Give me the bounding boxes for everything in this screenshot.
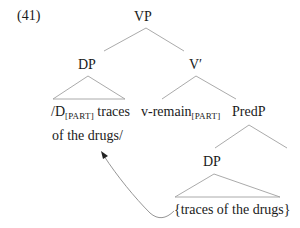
node-dp-low: DP: [203, 154, 221, 170]
leaf-dp-low: {traces of the drugs}: [174, 202, 290, 218]
dp-top-triangle: [53, 76, 125, 99]
d-part-text: /D: [51, 104, 65, 119]
v-remain-feature: [PART]: [192, 111, 221, 121]
movement-arrow: [104, 156, 174, 218]
branch-vbar-v: [162, 76, 196, 99]
leaf-dp-top-line1: /D[PART] traces: [51, 104, 130, 121]
branch-vbar-predp: [196, 76, 236, 99]
node-dp-top: DP: [78, 57, 96, 73]
branch-predp-dp: [215, 125, 249, 148]
d-part-feature: [PART]: [65, 111, 94, 121]
arrow-head-icon: [101, 151, 108, 159]
leaf-v-remain: v-remain[PART]: [141, 104, 220, 121]
branch-vp-vbar: [146, 28, 184, 51]
dp-low-triangle: [175, 174, 280, 197]
branch-predp-empty: [249, 125, 287, 148]
example-number: (41): [17, 8, 40, 24]
node-predp: PredP: [232, 104, 265, 120]
traces-text: traces: [94, 104, 130, 119]
v-remain-text: v-remain: [141, 104, 192, 119]
leaf-dp-top-line2: of the drugs/: [52, 128, 123, 144]
node-vp: VP: [134, 9, 152, 25]
node-v-bar: V′: [189, 57, 202, 73]
branch-vp-dp: [104, 28, 146, 51]
